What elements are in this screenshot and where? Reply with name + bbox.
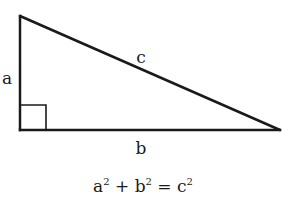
side-c-hypotenuse-line bbox=[20, 16, 280, 130]
eq-a: a bbox=[93, 176, 103, 196]
label-side-b: b bbox=[136, 140, 147, 157]
eq-c: c bbox=[177, 176, 187, 196]
eq-equals: = bbox=[152, 176, 177, 196]
pythagorean-equation: a2 + b2 = c2 bbox=[93, 178, 193, 195]
right-angle-marker bbox=[20, 105, 46, 130]
eq-plus: + bbox=[110, 176, 135, 196]
eq-b: b bbox=[135, 176, 146, 196]
right-triangle-diagram bbox=[0, 0, 291, 199]
label-side-c: c bbox=[136, 49, 146, 66]
label-side-a: a bbox=[2, 70, 12, 87]
eq-c-exponent: 2 bbox=[187, 176, 193, 187]
